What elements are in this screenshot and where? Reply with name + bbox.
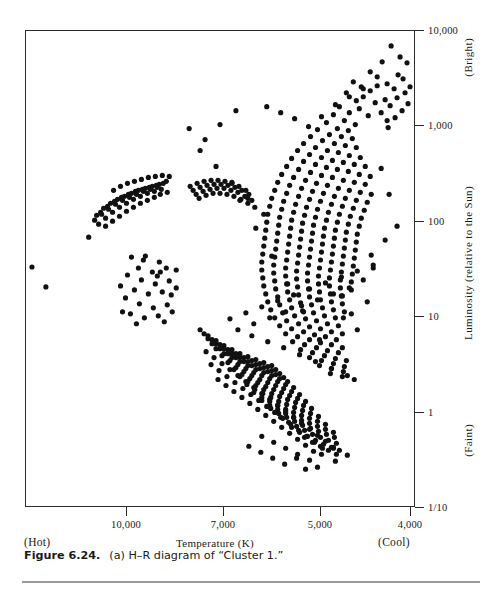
data-point [303, 467, 308, 472]
data-point [313, 359, 318, 364]
data-point [264, 104, 269, 109]
data-point [293, 400, 298, 405]
data-point [273, 246, 278, 251]
data-point [320, 138, 325, 143]
data-point [202, 137, 207, 142]
data-point [363, 182, 368, 187]
data-point [152, 189, 157, 194]
data-point [361, 94, 366, 99]
data-point [366, 113, 371, 118]
x-axis-tick-label: 7,000 [211, 519, 236, 530]
data-point [343, 143, 348, 148]
scatter-plot-svg [26, 31, 414, 506]
data-point [291, 410, 296, 415]
data-point [368, 69, 373, 74]
data-point [289, 326, 294, 331]
data-point [261, 283, 266, 288]
y-axis-tick [415, 221, 424, 222]
data-point [331, 430, 336, 435]
data-point [368, 174, 373, 179]
bottom-divider [22, 581, 480, 583]
data-point [320, 305, 325, 310]
data-point [280, 416, 285, 421]
data-point [363, 164, 368, 169]
data-point [335, 126, 340, 131]
data-point [329, 329, 334, 334]
data-point [103, 216, 108, 221]
data-point [263, 291, 268, 296]
data-point [271, 270, 276, 275]
data-point [336, 350, 341, 355]
data-point [395, 224, 400, 229]
data-point [338, 285, 343, 290]
data-point [308, 246, 313, 251]
data-point [152, 195, 157, 200]
data-point [248, 392, 253, 397]
data-point [357, 106, 362, 111]
data-point [160, 173, 165, 178]
data-point [300, 408, 305, 413]
data-point [284, 164, 289, 169]
data-point [407, 84, 412, 89]
data-point [187, 126, 192, 131]
data-point [318, 326, 323, 331]
data-point [296, 428, 301, 433]
data-point [332, 194, 337, 199]
data-point [314, 318, 319, 323]
data-point [350, 271, 355, 276]
data-point [369, 252, 374, 257]
data-point [139, 277, 144, 282]
data-point [164, 265, 169, 270]
data-point [274, 239, 279, 244]
data-point [351, 79, 356, 84]
data-point [268, 307, 273, 312]
data-point [331, 244, 336, 249]
data-point [289, 305, 294, 310]
data-point [330, 175, 335, 180]
data-point [275, 231, 280, 236]
data-point [301, 141, 306, 146]
data-point [134, 321, 139, 326]
data-point [379, 166, 384, 171]
y-axis-faint-label: (Faint) [462, 424, 474, 457]
data-point [118, 184, 123, 189]
data-point [252, 205, 257, 210]
data-point [217, 191, 222, 196]
data-point [334, 337, 339, 342]
data-point [29, 264, 34, 269]
data-point [235, 327, 240, 332]
x-axis-hot-label: (Hot) [24, 536, 50, 548]
data-point [352, 162, 357, 167]
data-point [297, 352, 302, 357]
data-point [305, 278, 310, 283]
data-point [276, 223, 281, 228]
data-point [309, 302, 314, 307]
data-point [306, 262, 311, 267]
data-point [315, 297, 320, 302]
data-point [271, 440, 276, 445]
data-point [239, 395, 244, 400]
data-point [296, 194, 301, 199]
data-point [273, 286, 278, 291]
data-point [279, 172, 284, 177]
data-point [302, 342, 307, 347]
data-point [312, 440, 317, 445]
data-point [263, 228, 268, 233]
data-point [213, 164, 218, 169]
data-point [139, 177, 144, 182]
data-point [304, 205, 309, 210]
data-point [354, 98, 359, 103]
data-point [243, 379, 248, 384]
data-point [217, 122, 222, 127]
data-point [298, 237, 303, 242]
data-point [319, 155, 324, 160]
data-point [146, 175, 151, 180]
data-point [294, 276, 299, 281]
data-point [358, 190, 363, 195]
data-point [335, 220, 340, 225]
data-point [223, 383, 228, 388]
figure-container: Temperature (K) (Hot) (Cool) (Bright) Lu… [0, 0, 501, 593]
data-point [296, 252, 301, 257]
data-point [341, 178, 346, 183]
data-point [146, 291, 151, 296]
